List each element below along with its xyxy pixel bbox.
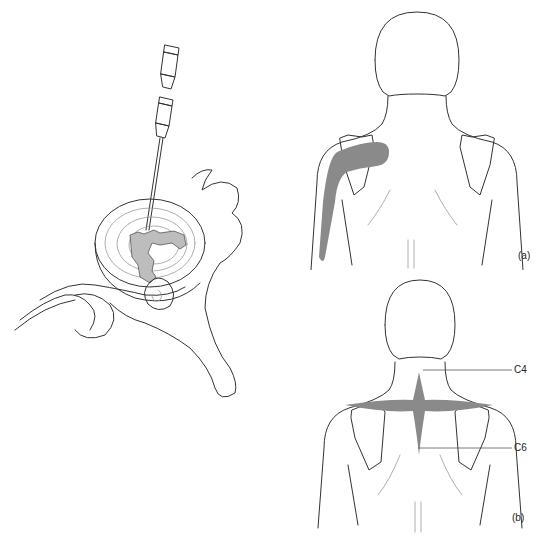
disc-injection-illustration	[0, 0, 272, 430]
c6-label: C6	[514, 442, 527, 453]
panel-a-label: (a)	[518, 250, 530, 261]
disc-lesion	[130, 230, 186, 283]
pain-referral-shoulders	[345, 372, 493, 455]
spine-needle-drawing	[0, 0, 272, 430]
c4-label: C4	[514, 364, 527, 375]
intervertebral-disc	[95, 199, 205, 301]
needle-icon	[146, 45, 179, 230]
body-diagram-b: C4 C6 (b)	[290, 270, 545, 538]
body-diagram-a: (a)	[290, 0, 545, 270]
body-outline-a	[311, 12, 523, 270]
pain-referral-arm	[319, 142, 389, 261]
panel-b-label: (b)	[512, 512, 524, 523]
